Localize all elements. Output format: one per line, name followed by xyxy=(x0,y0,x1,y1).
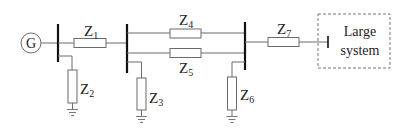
z2-wire xyxy=(58,56,72,70)
z2-label: Z2 xyxy=(80,81,94,99)
ground-icon-z3 xyxy=(136,117,147,123)
ground-icon-z6 xyxy=(227,117,238,123)
ground-icon-z2 xyxy=(67,110,78,116)
z2-resistor xyxy=(68,70,77,103)
z3-label: Z3 xyxy=(149,90,163,108)
z3-resistor xyxy=(137,78,146,110)
generator: G xyxy=(21,33,41,53)
z5-resistor xyxy=(170,49,201,58)
z6-label: Z6 xyxy=(240,87,254,105)
z7-label: Z7 xyxy=(277,21,291,39)
large-system-label-line1: Large xyxy=(344,24,376,39)
z6-wire xyxy=(232,62,245,77)
z4-label: Z4 xyxy=(179,12,193,30)
large-system-label-line2: system xyxy=(341,43,380,58)
z4-resistor xyxy=(170,29,201,38)
generator-label: G xyxy=(26,36,36,51)
z5-label: Z5 xyxy=(179,60,193,78)
z1-label: Z1 xyxy=(84,23,98,41)
z6-resistor xyxy=(228,77,237,110)
z3-wire xyxy=(127,62,142,78)
z7-resistor xyxy=(268,38,299,47)
power-system-diagram: G Z1 Z2 Z4 Z5 Z3 xyxy=(0,0,410,135)
z1-resistor xyxy=(74,39,106,48)
